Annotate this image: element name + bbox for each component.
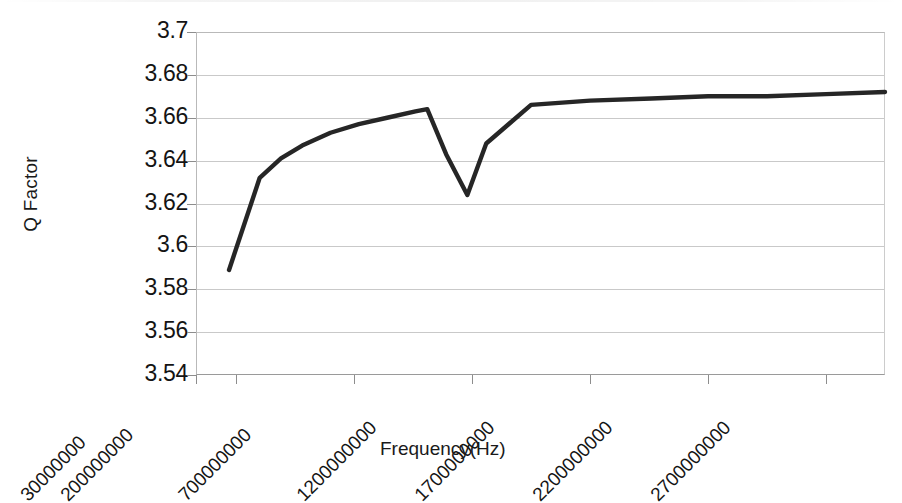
x-axis-tick-mark xyxy=(590,375,591,384)
series-line-q-factor xyxy=(229,92,885,270)
y-axis-tick-mark xyxy=(187,118,196,119)
y-axis-tick-label: 3.58 xyxy=(110,274,188,301)
y-axis-tick-mark xyxy=(187,289,196,290)
y-axis-tick-label: 3.68 xyxy=(110,60,188,87)
y-axis-tick-label: 3.62 xyxy=(110,189,188,216)
y-axis-tick-mark xyxy=(187,75,196,76)
y-axis-tick-mark xyxy=(187,332,196,333)
y-axis-tick-label: 3.7 xyxy=(110,17,188,44)
y-axis-tick-mark xyxy=(187,32,196,33)
x-axis-title: Frequency(Hz) xyxy=(380,438,506,460)
x-axis-tick-mark xyxy=(708,375,709,384)
x-axis-tick-label: 2700000000 xyxy=(646,417,735,503)
cropped-title-artifact xyxy=(0,0,902,2)
x-axis-tick-label: 700000000 xyxy=(174,424,256,503)
y-axis-tick-label: 3.66 xyxy=(110,103,188,130)
x-axis-tick-mark xyxy=(472,375,473,384)
chart-figure: Q Factor 3.73.683.663.643.623.63.583.563… xyxy=(0,0,902,503)
y-axis-tick-mark xyxy=(187,375,196,376)
x-axis-tick-mark xyxy=(826,375,827,384)
y-axis-tick-label: 3.56 xyxy=(110,317,188,344)
series-layer xyxy=(196,32,885,375)
y-axis-tick-mark xyxy=(187,161,196,162)
y-axis-tick-label: 3.6 xyxy=(110,231,188,258)
y-axis-tick-label: 3.54 xyxy=(110,360,188,387)
y-axis-title: Q Factor xyxy=(20,139,42,249)
x-axis-tick-mark xyxy=(354,375,355,384)
y-axis-tick-mark xyxy=(187,204,196,205)
x-axis-tick-label: 1200000000 xyxy=(292,417,381,503)
x-axis-tick-mark xyxy=(236,375,237,384)
y-axis-tick-label: 3.64 xyxy=(110,146,188,173)
y-axis-tick-mark xyxy=(187,246,196,247)
plot-area xyxy=(196,32,885,375)
x-axis-tick-mark xyxy=(196,375,197,384)
x-axis-tick-label: 2200000000 xyxy=(528,417,617,503)
